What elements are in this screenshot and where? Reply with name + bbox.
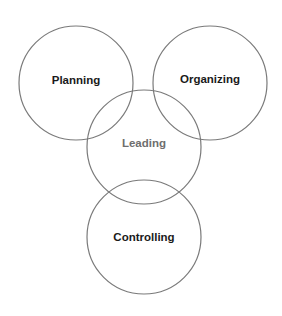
node-organizing: Organizing <box>153 26 267 140</box>
planning-label: Planning <box>52 74 101 86</box>
node-controlling: Controlling <box>87 180 201 294</box>
leading-label: Leading <box>122 137 166 149</box>
management-functions-diagram: Planning Organizing Leading Controlling <box>0 0 282 316</box>
node-leading: Leading <box>87 90 201 204</box>
node-planning: Planning <box>19 26 133 140</box>
organizing-label: Organizing <box>180 73 240 85</box>
controlling-label: Controlling <box>113 231 174 243</box>
diagram-canvas: Planning Organizing Leading Controlling <box>0 0 282 316</box>
